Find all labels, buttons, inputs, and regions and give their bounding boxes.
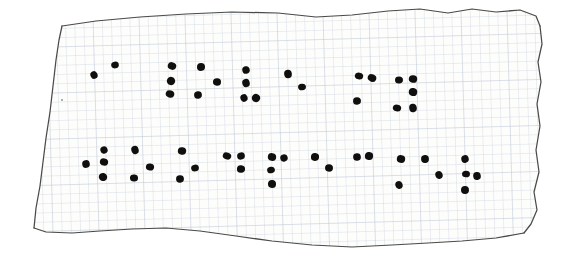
braille-dot	[461, 186, 469, 194]
paper-body	[0, 0, 565, 259]
graph-paper	[0, 0, 565, 259]
pencil-tick-mark	[61, 99, 63, 101]
grid-major	[0, 0, 565, 259]
braille-dot	[395, 76, 403, 83]
braille-note-scene	[0, 0, 565, 259]
